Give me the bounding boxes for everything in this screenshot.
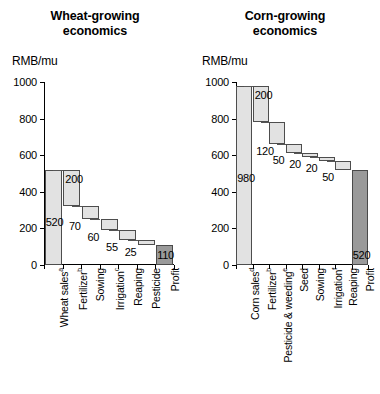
waterfall-connector — [244, 86, 253, 87]
corn-title-line-1: Corn-growing — [190, 9, 380, 24]
bar-value-label: 980 — [237, 172, 254, 184]
category-label: Pesticide — [150, 268, 162, 309]
bar-value-label: 200 — [255, 89, 272, 101]
waterfall-connector — [53, 170, 63, 171]
y-tick-mark — [40, 192, 44, 193]
bar-value-label: 60 — [88, 231, 100, 243]
corn-chart-panel: Corn-growing economics RMB/mu 0200400600… — [190, 0, 380, 394]
corn-category-labels: Corn salesdFertilizerbPesticide & weedin… — [236, 268, 368, 388]
y-tick-label: 200 — [211, 222, 229, 234]
waterfall-connector — [261, 122, 270, 123]
y-tick-label: 600 — [211, 149, 229, 161]
wheat-chart-panel: Wheat-growing economics RMB/mu 020040060… — [0, 0, 190, 394]
y-tick-label: 0 — [31, 259, 37, 271]
y-tick-mark — [232, 82, 236, 83]
waterfall-connector — [294, 153, 303, 154]
bar-value-label: 520 — [353, 249, 370, 261]
bar-cost — [101, 219, 118, 230]
y-tick-label: 1000 — [205, 76, 229, 88]
waterfall-connector — [90, 219, 100, 220]
wheat-plot-area: 02004006008001000 52020070605525110 — [44, 82, 174, 265]
category-label: Fertilizerb — [265, 268, 278, 310]
bar-value-label: 120 — [256, 145, 273, 157]
bar-value-label: 70 — [69, 220, 81, 232]
bar-value-label: 20 — [306, 162, 318, 174]
category-label: Sowing — [314, 268, 326, 301]
bar-cost — [269, 122, 285, 144]
bar-cost — [286, 144, 302, 153]
category-label: Fertilizerb — [76, 268, 89, 310]
y-tick-mark — [40, 119, 44, 120]
waterfall-charts-figure: Wheat-growing economics RMB/mu 020040060… — [0, 0, 380, 394]
waterfall-connector — [327, 161, 336, 162]
y-tick-label: 400 — [211, 186, 229, 198]
wheat-chart-title: Wheat-growing economics — [0, 9, 190, 39]
y-tick-label: 800 — [211, 113, 229, 125]
waterfall-connector — [72, 206, 82, 207]
y-tick-mark — [40, 82, 44, 83]
bar-value-label: 20 — [289, 158, 301, 170]
bar-cost — [138, 240, 155, 245]
bar-value-label: 25 — [125, 246, 137, 258]
y-tick-label: 800 — [19, 113, 37, 125]
waterfall-connector — [109, 230, 119, 231]
bar-cost — [119, 230, 136, 240]
bar-value-label: 50 — [273, 154, 285, 166]
y-tick-label: 600 — [19, 149, 37, 161]
bar-value-label: 50 — [322, 171, 334, 183]
bar-value-label: 200 — [65, 173, 82, 185]
category-label: Reaping — [347, 268, 359, 306]
category-label: Irrigationf — [331, 268, 344, 309]
y-tick-label: 200 — [19, 222, 37, 234]
y-tick-label: 0 — [223, 259, 229, 271]
category-label: Wheat salesa — [57, 268, 70, 327]
category-label: Seed — [298, 268, 310, 292]
wheat-category-labels: Wheat salesaFertilizerbSowingIrrigationc… — [44, 268, 174, 388]
wheat-y-axis-unit-label: RMB/mu — [12, 54, 57, 68]
category-label: Irrigationc — [113, 268, 126, 310]
category-label: Reaping — [132, 268, 144, 306]
corn-plot-area: 02004006008001000 98020012050202050520 — [236, 82, 368, 265]
y-tick-label: 400 — [19, 186, 37, 198]
waterfall-connector — [128, 240, 138, 241]
bar-cost — [335, 161, 351, 170]
category-label: Corn salesd — [248, 268, 261, 320]
bar-value-label: 110 — [157, 249, 174, 261]
category-label: Pesticide & weedinge — [281, 268, 294, 362]
wheat-title-line-1: Wheat-growing — [0, 9, 190, 24]
category-label: Profit — [169, 268, 181, 291]
y-tick-label: 1000 — [13, 76, 37, 88]
y-tick-mark — [40, 228, 44, 229]
category-label: Sowing — [94, 268, 106, 301]
corn-y-axis-unit-label: RMB/mu — [202, 54, 247, 68]
bar-value-label: 55 — [106, 241, 118, 253]
bar-cost — [82, 206, 99, 219]
waterfall-connector — [277, 144, 286, 145]
corn-chart-title: Corn-growing economics — [190, 9, 380, 39]
category-label: Profit — [364, 268, 376, 291]
wheat-title-line-2: economics — [0, 24, 190, 39]
corn-title-line-2: economics — [190, 24, 380, 39]
waterfall-connector — [310, 157, 319, 158]
y-tick-mark — [40, 155, 44, 156]
bar-value-label: 520 — [46, 216, 63, 228]
